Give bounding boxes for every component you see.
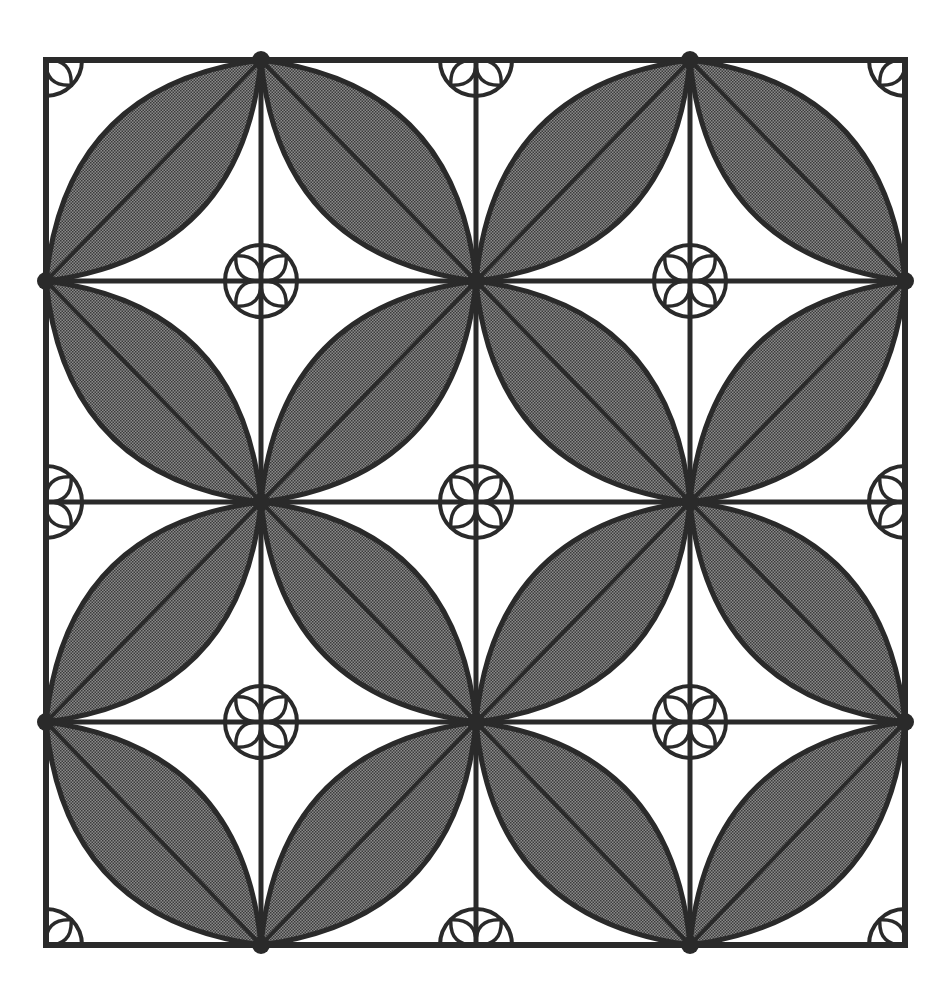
star-junction [467,713,485,731]
rosette-petal [905,477,930,502]
rosette-petal [905,502,930,527]
rosette-ornament [440,466,512,538]
rosette-petal [21,60,46,85]
star-junction [681,493,699,511]
rosette-petal [476,35,501,60]
star-junction [252,493,270,511]
rosette-ornament [225,245,297,317]
rosette-petal [451,945,476,970]
rosette-petal [21,35,46,60]
rosette-petal [451,35,476,60]
rosette-petal [21,920,46,945]
rosette-ornament [654,686,726,758]
rosette-petal [905,945,930,970]
rosette-petal [880,945,905,970]
rosette-petal [21,945,46,970]
rosette-petal [46,35,71,60]
rosette-petal [905,35,930,60]
rosette-petal [21,502,46,527]
rosette-petal [880,35,905,60]
pattern-canvas [0,0,952,1006]
rosette-ornament [654,245,726,317]
rosette-petal [21,477,46,502]
rosette-petal [905,60,930,85]
rosette-ornament [225,686,297,758]
rosette-petal [46,945,71,970]
star-junction [467,272,485,290]
rosette-petal [905,920,930,945]
rosette-petal [476,945,501,970]
